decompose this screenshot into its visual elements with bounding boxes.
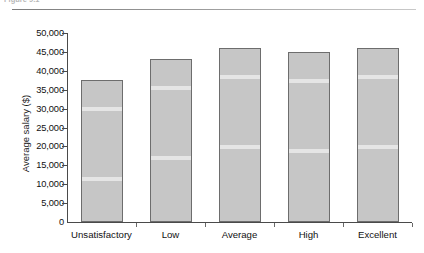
x-axis-tick-label: High [299, 229, 319, 240]
x-axis-tick-mark [205, 223, 206, 227]
scan-artifact-band [358, 75, 398, 79]
bar [150, 59, 192, 222]
x-axis-tick-label: Excellent [358, 229, 397, 240]
scan-artifact-band [358, 145, 398, 149]
y-axis-tick-mark [62, 165, 67, 166]
x-axis-tick-label: Average [222, 229, 258, 240]
bar [288, 52, 330, 222]
scan-artifact-band [151, 86, 191, 90]
y-axis-tick-mark [62, 184, 67, 185]
scan-artifact-band [151, 156, 191, 160]
y-axis-tick-mark [62, 71, 67, 72]
y-axis-tick-mark [62, 109, 67, 110]
x-axis-tick-mark [412, 223, 413, 227]
x-axis-tick-label: Unsatisfactory [71, 229, 132, 240]
bar [357, 48, 399, 222]
scan-artifact-band [82, 107, 122, 111]
scan-artifact-band [82, 177, 122, 181]
y-axis-tick-mark [62, 203, 67, 204]
bar-series [0, 0, 424, 253]
scan-artifact-band [220, 75, 260, 79]
figure-container: Figure 9.1 Average salary ($) 05,00010,0… [0, 0, 424, 253]
y-axis-tick-mark [62, 52, 67, 53]
x-axis-tick-mark [343, 223, 344, 227]
scan-artifact-band [220, 145, 260, 149]
x-axis-tick-label: Low [162, 229, 180, 240]
scan-artifact-band [289, 149, 329, 153]
bar-chart: Average salary ($) 05,00010,00015,00020,… [0, 0, 424, 253]
y-axis-tick-mark [62, 128, 67, 129]
y-axis-tick-mark [62, 33, 67, 34]
bar [81, 80, 123, 222]
y-axis-tick-mark [62, 90, 67, 91]
x-axis-tick-mark [136, 223, 137, 227]
scan-artifact-band [289, 79, 329, 83]
x-axis-tick-mark [274, 223, 275, 227]
bar [219, 48, 261, 222]
y-axis-tick-mark [62, 146, 67, 147]
